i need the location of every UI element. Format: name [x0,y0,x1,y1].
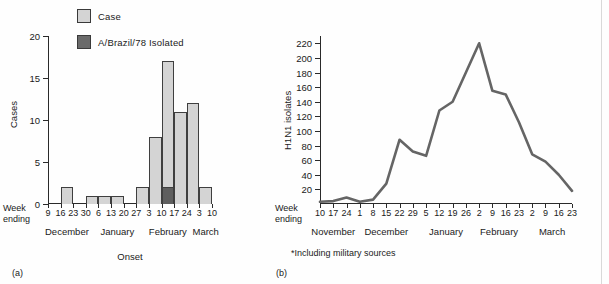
panel-a-case-histogram: Case A/Brazil/78 Isolated Cases 05101520… [0,0,272,284]
month-label: November [311,226,355,237]
x-tick-label: 2 [530,208,535,218]
bar-case [199,187,212,204]
panel-tag-a: (a) [12,268,23,278]
month-label: January [100,226,134,237]
x-tick-label: 24 [342,208,352,218]
x-tick-label: 17 [328,208,338,218]
x-tick-label: 2 [477,208,482,218]
x-tick-label: 24 [182,208,192,218]
x-tick-label: 6 [96,208,101,218]
figure-root: Case A/Brazil/78 Isolated Cases 05101520… [0,0,609,284]
x-tick-label: 1 [357,208,362,218]
month-label: February [480,226,518,237]
x-tick-label: 20 [119,208,129,218]
x-tick-label: 16 [554,208,564,218]
x-tick-label: 9 [490,208,495,218]
month-label: December [45,226,89,237]
x-tick-label: 23 [68,208,78,218]
week-ending-line1: Week [3,203,30,214]
y-axis-title-cases: Cases [8,101,19,128]
isolates-polyline [320,43,572,202]
bar-case [174,112,187,204]
y-tick-label: 140 [296,96,312,107]
week-ending-line1: Week [275,203,302,214]
x-tick-label: 30 [81,208,91,218]
x-tick-label: 12 [434,208,444,218]
week-ending-label-a: Week ending [3,203,30,224]
x-tick-label: 23 [514,208,524,218]
x-tick-label: 19 [448,208,458,218]
x-tick-label: 16 [501,208,511,218]
x-tick-label: 13 [106,208,116,218]
x-tick-label: 10 [207,208,217,218]
bar-isolated [163,187,174,204]
line-series-h1n1-isolates [320,36,572,204]
plot-area-a: 05101520 916233061320273101724310 [48,36,212,204]
y-tick-label: 15 [29,73,40,84]
y-tick-label: 200 [296,52,312,63]
y-tick-label: 100 [296,125,312,136]
y-tick-label: 120 [296,111,312,122]
x-tick-label: 22 [395,208,405,218]
bar-case [187,103,200,204]
legend-item-label: Case [98,11,121,22]
bar-case [111,196,124,204]
x-tick-label: 15 [381,208,391,218]
y-tick-label: 10 [29,115,40,126]
y-tick-label: 60 [301,155,312,166]
x-tick-label: 8 [371,208,376,218]
x-tick-label: 29 [408,208,418,218]
week-ending-label-b: Week ending [275,203,302,224]
bar-case [162,61,175,204]
month-label: March [192,226,218,237]
x-tick-label: 23 [567,208,577,218]
square-swatch-light-icon [77,9,91,23]
bar-group-a [48,36,212,204]
x-tick-label: 3 [146,208,151,218]
x-axis-title-onset: Onset [117,251,142,262]
week-ending-line2: ending [275,214,302,225]
x-tick-label: 10 [157,208,167,218]
panel-b-isolates-line: H1N1 isolates 20406080100120140160180200… [272,0,609,284]
x-tick-label: 16 [56,208,66,218]
month-label: March [539,226,565,237]
bar-case [86,196,99,204]
bar-case [98,196,111,204]
y-tick-label: 5 [35,157,40,168]
plot-area-b: 20406080100120140160180200220 1017241815… [320,36,572,204]
bar-case [149,137,162,204]
panel-tag-b: (b) [276,268,287,278]
x-tick-label: 17 [169,208,179,218]
y-tick-label: 20 [29,31,40,42]
y-tick-label: 220 [296,38,312,49]
y-tick-label: 0 [35,199,40,210]
bar-case [136,187,149,204]
x-tick-label: 27 [131,208,141,218]
y-axis-title-isolates: H1N1 isolates [282,91,293,150]
month-label: January [429,226,463,237]
y-tick-label: 40 [301,169,312,180]
y-tick-label: 180 [296,67,312,78]
x-tick-label: 9 [45,208,50,218]
footnote-military-sources: *Including military sources [291,248,396,258]
month-label: December [364,226,408,237]
x-tick-label: 3 [197,208,202,218]
legend-item-case: Case [77,8,184,24]
y-tick-label: 80 [301,140,312,151]
y-tick-label: 160 [296,82,312,93]
y-tick-label: 20 [301,184,312,195]
month-label: February [149,226,187,237]
x-tick-label: 9 [543,208,548,218]
bar-case [61,187,74,204]
x-tick-label: 5 [424,208,429,218]
x-tick-label: 26 [461,208,471,218]
week-ending-line2: ending [3,214,30,225]
x-tick-label: 10 [315,208,325,218]
